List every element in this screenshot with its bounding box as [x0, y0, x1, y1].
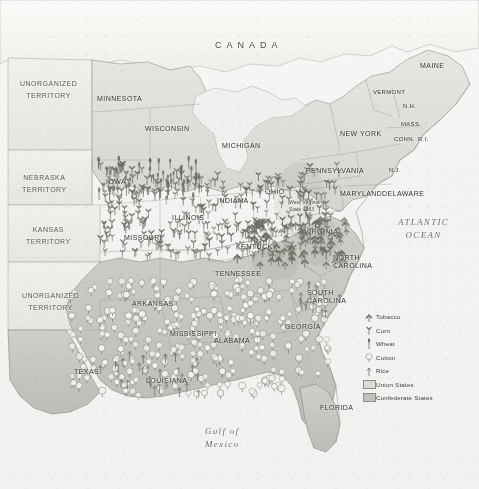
rice-icon [362, 364, 376, 377]
west-virginia-note: West Virginia State 1863 [289, 199, 320, 213]
wheat-icon [362, 337, 376, 350]
corn-icon [362, 324, 376, 337]
legend-cotton-label: Cotton [376, 354, 395, 361]
map-legend: Tobacco Corn Wheat Cotton Rice [362, 310, 474, 405]
ohio: OHIO [265, 188, 285, 195]
texas: TEXAS [74, 368, 99, 375]
michigan: MICHIGAN [222, 142, 261, 149]
florida: FLORIDA [320, 404, 354, 411]
vermont: VERMONT [373, 89, 405, 95]
legend-union-label: Union States [376, 381, 414, 388]
pennsylvania: PENNSYLVANIA [306, 167, 364, 174]
kansas-territory: KANSAS TERRITORY [26, 224, 71, 248]
kentucky: KENTUCKY [236, 243, 278, 250]
alabama: ALABAMA [214, 337, 250, 344]
legend-union: Union States [362, 378, 474, 392]
legend-tobacco: Tobacco [362, 310, 474, 324]
rhode-island: R.I. [418, 136, 429, 142]
wisconsin: WISCONSIN [145, 125, 190, 132]
tennessee: TENNESSEE [215, 270, 261, 277]
missouri: MISSOURI [124, 234, 162, 241]
confederate-swatch [362, 391, 376, 404]
delaware: DELAWARE [382, 190, 424, 197]
legend-confederate: Confederate States [362, 391, 474, 405]
cotton-icon [362, 351, 376, 364]
union-swatch [362, 378, 376, 391]
louisiana: LOUISIANA [146, 377, 187, 384]
legend-tobacco-label: Tobacco [376, 313, 400, 320]
legend-confederate-label: Confederate States [376, 394, 433, 401]
historical-map: CANADAATLANTIC OCEANGulf of MexicoUNORGA… [0, 0, 479, 489]
map-labels-layer: CANADAATLANTIC OCEANGulf of MexicoUNORGA… [0, 0, 479, 489]
legend-wheat: Wheat [362, 337, 474, 351]
legend-corn-label: Corn [376, 327, 390, 334]
virginia: VIRGINIA [304, 228, 338, 235]
gulf-of-mexico-label: Gulf of Mexico [205, 425, 239, 451]
legend-rice-label: Rice [376, 367, 389, 374]
legend-corn: Corn [362, 324, 474, 338]
new-york: NEW YORK [340, 130, 382, 137]
new-hampshire: N.H. [403, 103, 416, 109]
illinois: ILLINOIS [172, 214, 204, 221]
georgia: GEORGIA [285, 323, 321, 330]
nebraska-territory: NEBRASKA TERRITORY [22, 172, 67, 196]
maryland: MARYLAND [340, 190, 382, 197]
legend-cotton: Cotton [362, 351, 474, 365]
mississippi: MISSISSIPPI [170, 330, 217, 337]
unorganized-territory-north: UNORGANIZED TERRITORY [20, 78, 77, 102]
new-jersey: N.J. [389, 167, 401, 173]
indiana: INDIANA [217, 197, 249, 204]
massachusetts: MASS. [401, 121, 421, 127]
connecticut: CONN. [394, 136, 415, 142]
CANADA: CANADA [215, 40, 283, 50]
minnesota: MINNESOTA [97, 95, 142, 102]
maine: MAINE [420, 62, 444, 69]
iowa: IOWA [106, 178, 126, 185]
legend-wheat-label: Wheat [376, 340, 395, 347]
arkansas: ARKANSAS [132, 300, 174, 307]
legend-rice: Rice [362, 364, 474, 378]
tobacco-icon [362, 310, 376, 323]
north-carolina: NORTH CAROLINA [333, 254, 372, 270]
atlantic-ocean-label: ATLANTIC OCEAN [398, 216, 449, 242]
south-carolina: SOUTH CAROLINA [307, 289, 346, 305]
unorganized-territory-south: UNORGANIZED TERRITORY [22, 290, 79, 314]
